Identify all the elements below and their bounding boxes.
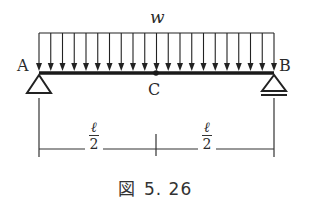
load-arrow-head-icon [154, 63, 160, 71]
load-arrow-head-icon [165, 63, 171, 71]
load-arrow-head-icon [224, 63, 230, 71]
fraction-numerator: ℓ [197, 120, 217, 135]
load-arrow-head-icon [95, 63, 101, 71]
load-arrow-head-icon [130, 63, 136, 71]
caption-prefix: 図 [118, 179, 136, 199]
load-arrow-head-icon [142, 63, 148, 71]
fraction-numerator: ℓ [84, 120, 104, 135]
roller-support-b [261, 75, 287, 95]
support-a-label: A [17, 56, 29, 75]
load-arrow-head-icon [259, 63, 265, 71]
load-arrow-head-icon [236, 63, 242, 71]
dimension-lines [39, 98, 274, 157]
support-b-label: B [279, 56, 291, 75]
load-arrow-head-icon [201, 63, 207, 71]
load-arrow-head-icon [212, 63, 218, 71]
load-arrow-head-icon [118, 63, 124, 71]
midpoint-c-marker [153, 70, 159, 76]
pin-support-a [27, 75, 51, 93]
load-arrow-head-icon [107, 63, 113, 71]
load-arrow-head-icon [60, 63, 66, 71]
load-label: w [150, 7, 165, 27]
load-arrow-head-icon [71, 63, 77, 71]
fraction-denominator: 2 [84, 136, 104, 152]
load-arrow-head-icon [248, 63, 254, 71]
figure-caption: 図5. 26 [118, 175, 192, 200]
load-arrow-head-icon [83, 63, 89, 71]
load-arrow-head-icon [36, 63, 42, 71]
load-arrow-head-icon [271, 63, 277, 71]
load-arrow-head-icon [48, 63, 54, 71]
midpoint-c-label: C [148, 80, 160, 99]
dimension-left-half: ℓ 2 [84, 120, 104, 152]
dimension-right-half: ℓ 2 [197, 120, 217, 152]
fraction-denominator: 2 [197, 136, 217, 152]
load-arrow-head-icon [177, 63, 183, 71]
distributed-load [36, 33, 277, 71]
load-arrow-head-icon [189, 63, 195, 71]
caption-number: 5. 26 [144, 179, 192, 199]
